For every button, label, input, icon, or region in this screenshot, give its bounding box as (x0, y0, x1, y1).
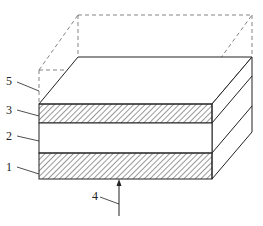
arrow-up-icon (117, 179, 122, 216)
layer-3 (39, 104, 212, 123)
label-2: 2 (6, 130, 12, 142)
label-3: 3 (6, 104, 12, 116)
label-5: 5 (6, 75, 12, 87)
label-1: 1 (6, 161, 12, 173)
layer-1 (39, 153, 212, 179)
layered-stack-diagram (0, 0, 263, 226)
layer-2 (39, 123, 212, 153)
label-4: 4 (92, 190, 98, 202)
